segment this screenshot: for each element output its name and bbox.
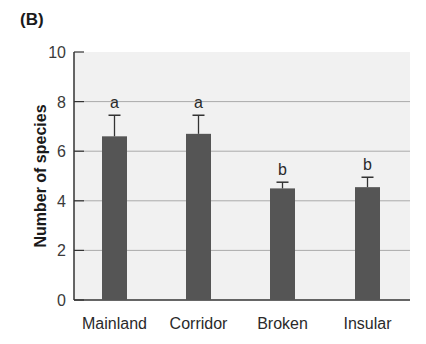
significance-letter: a bbox=[194, 94, 203, 111]
x-category-label: Broken bbox=[257, 315, 308, 332]
bar-broken bbox=[270, 188, 295, 300]
bar-insular bbox=[355, 187, 380, 300]
bar-chart: 0246810aMainlandaCorridorbBrokenbInsular bbox=[0, 0, 426, 344]
x-category-label: Mainland bbox=[82, 315, 147, 332]
significance-letter: b bbox=[278, 161, 287, 178]
y-tick-label: 0 bbox=[57, 292, 66, 309]
bar-mainland bbox=[102, 136, 127, 300]
y-tick-label: 6 bbox=[57, 143, 66, 160]
y-tick-label: 4 bbox=[57, 193, 66, 210]
significance-letter: b bbox=[363, 156, 372, 173]
y-tick-label: 10 bbox=[48, 44, 66, 61]
x-category-label: Corridor bbox=[170, 315, 228, 332]
x-category-label: Insular bbox=[343, 315, 392, 332]
significance-letter: a bbox=[110, 94, 119, 111]
y-tick-label: 8 bbox=[57, 94, 66, 111]
y-tick-label: 2 bbox=[57, 242, 66, 259]
bar-corridor bbox=[186, 134, 211, 300]
